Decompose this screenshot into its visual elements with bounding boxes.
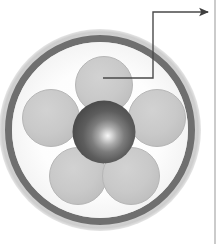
conductor-upper-right bbox=[129, 90, 186, 147]
conductor-upper-left bbox=[23, 90, 80, 147]
central-core bbox=[73, 101, 136, 164]
figure-root bbox=[0, 0, 221, 244]
cable-cross-section-figure bbox=[0, 0, 221, 244]
